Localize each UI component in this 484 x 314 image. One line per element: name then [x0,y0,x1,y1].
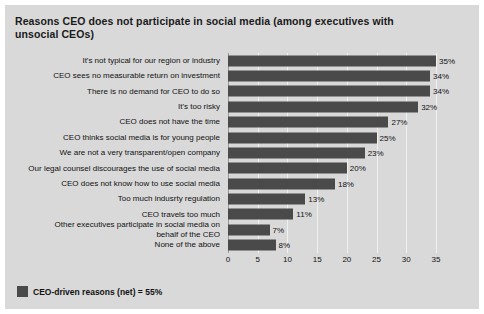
category-label: There is no demand for CEO to do so [13,87,224,97]
x-tick-label: 30 [402,255,411,264]
x-tick-label: 35 [432,255,441,264]
category-label: Too much indusrty regulation [13,194,224,204]
category-label: It's not typical for our region or indus… [13,56,224,66]
bar-track: 20% [224,161,471,176]
bar-row: CEO does not have the time27% [13,115,471,130]
chart-panel: Reasons CEO does not participate in soci… [5,5,479,309]
bar-track: 7% [224,222,471,237]
legend: CEO-driven reasons (net) = 55% [17,286,162,297]
category-label: It's too risky [13,102,224,112]
bar-track: 8% [224,238,471,253]
category-label: Our legal counsel discourages the use of… [13,164,224,174]
bar-track: 34% [224,68,471,83]
bar-value-label: 34% [430,72,449,81]
bar [228,147,365,158]
bar-value-label: 13% [305,195,324,204]
bar-value-label: 25% [377,133,396,142]
legend-label: CEO-driven reasons (net) = 55% [33,287,162,297]
x-tick-label: 5 [255,255,259,264]
bar-track: 35% [224,53,471,68]
bar-track: 18% [224,176,471,191]
bar [228,224,270,235]
x-tick-label: 0 [226,255,230,264]
bar-track: 23% [224,145,471,160]
bar-value-label: 11% [293,210,311,219]
bar [228,117,388,128]
bar-row: Other executives participate in social m… [13,222,471,237]
x-tick-label: 20 [342,255,351,264]
category-label: We are not a very transparent/open compa… [13,148,224,158]
bar [228,178,335,189]
bar-row: CEO does not know how to use social medi… [13,176,471,191]
bar-value-label: 34% [430,87,449,96]
bar [228,71,430,82]
bar-track: 25% [224,130,471,145]
category-label: CEO sees no measurable return on investm… [13,71,224,81]
x-axis: 05101520253035 [228,255,436,269]
bar-row: We are not a very transparent/open compa… [13,145,471,160]
bar-value-label: 23% [365,148,384,157]
category-label: Other executives participate in social m… [13,220,224,239]
bar-value-label: 20% [347,164,366,173]
x-tick-label: 10 [283,255,292,264]
plot-area: It's not typical for our region or indus… [13,53,471,275]
bar [228,101,418,112]
bar-value-label: 18% [335,179,354,188]
category-label: CEO does not have the time [13,117,224,127]
bar-track: 32% [224,99,471,114]
bar-row: There is no demand for CEO to do so34% [13,84,471,99]
bar [228,209,293,220]
bar-track: 11% [224,207,471,222]
bar-value-label: 8% [276,241,291,250]
bar [228,240,276,251]
bar [228,55,436,66]
bar-track: 27% [224,115,471,130]
bar-rows: It's not typical for our region or indus… [13,53,471,253]
bar-track: 13% [224,191,471,206]
bar [228,132,377,143]
category-label: CEO thinks social media is for young peo… [13,133,224,143]
bar-row: CEO sees no measurable return on investm… [13,68,471,83]
category-label: CEO travels too much [13,210,224,220]
legend-swatch-icon [17,286,28,297]
bar-row: Too much indusrty regulation13% [13,191,471,206]
bar-row: It's not typical for our region or indus… [13,53,471,68]
bar [228,86,430,97]
bar-value-label: 32% [418,102,437,111]
bar-row: CEO thinks social media is for young peo… [13,130,471,145]
bar [228,194,305,205]
bar-track: 34% [224,84,471,99]
bar-value-label: 35% [436,56,455,65]
x-tick-label: 25 [372,255,381,264]
category-label: None of the above [13,240,224,250]
bar-row: None of the above8% [13,238,471,253]
bar-value-label: 27% [388,118,407,127]
bar-row: It's too risky32% [13,99,471,114]
category-label: CEO does not know how to use social medi… [13,179,224,189]
bar-value-label: 7% [270,225,285,234]
x-tick-label: 15 [313,255,322,264]
bar-row: Our legal counsel discourages the use of… [13,161,471,176]
chart-title: Reasons CEO does not participate in soci… [15,15,435,41]
bar [228,163,347,174]
